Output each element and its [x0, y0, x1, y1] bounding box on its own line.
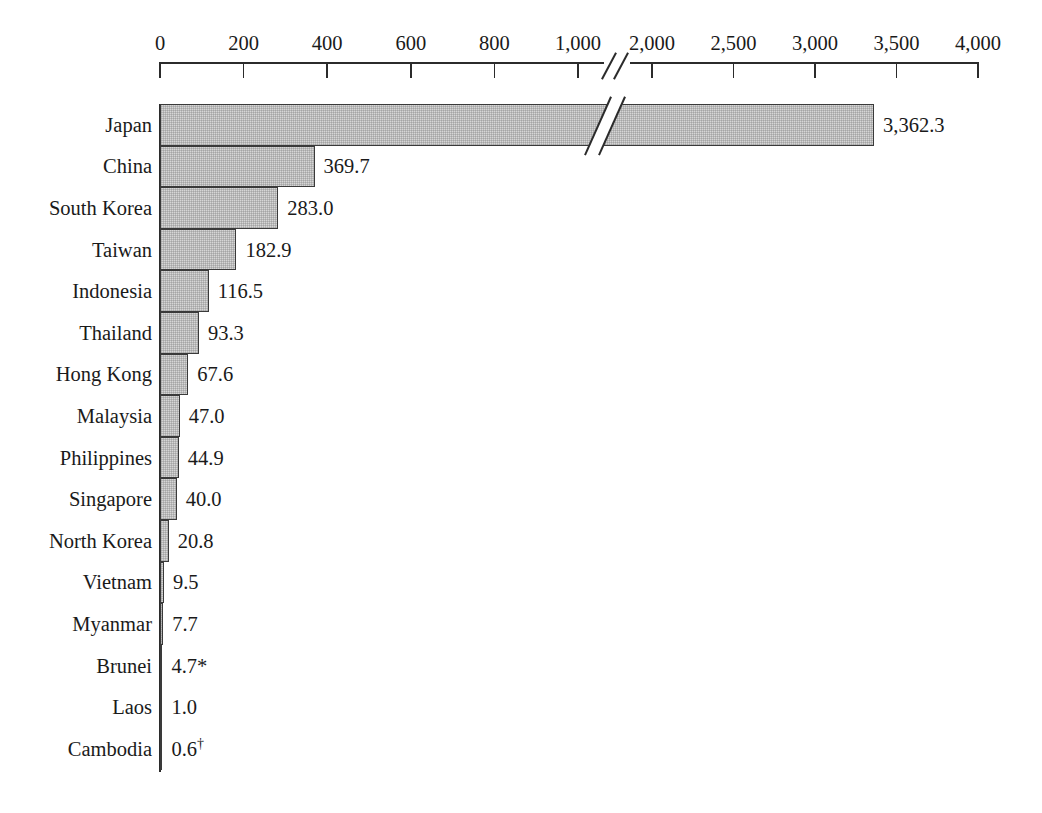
- value-label-text: 20.8: [178, 530, 214, 552]
- value-label-cambodia: 0.6†: [171, 739, 204, 760]
- value-label-japan: 3,362.3: [883, 115, 945, 136]
- bar-row: Philippines44.9: [0, 437, 1042, 479]
- value-label-china: 369.7: [324, 156, 370, 177]
- value-label-text: 47.0: [189, 405, 225, 427]
- value-label-dagger: †: [197, 736, 204, 751]
- axis-tick-label-2500: 2,500: [710, 33, 756, 54]
- value-label-text: 0.6: [171, 738, 197, 760]
- axis-tick-4000: [977, 62, 979, 78]
- category-label-china: China: [103, 156, 152, 177]
- category-label-myanmar: Myanmar: [72, 614, 152, 635]
- bar-row: Thailand93.3: [0, 312, 1042, 354]
- axis-tick-label-800: 800: [479, 33, 510, 54]
- axis-tick-0: [159, 62, 161, 78]
- axis-tick-3500: [896, 62, 898, 78]
- axis-tick-label-4000: 4,000: [955, 33, 1001, 54]
- bar-row: Singapore40.0: [0, 478, 1042, 520]
- value-label-indonesia: 116.5: [218, 281, 263, 302]
- value-label-malaysia: 47.0: [189, 406, 225, 427]
- category-label-malaysia: Malaysia: [77, 406, 152, 427]
- value-label-taiwan: 182.9: [245, 240, 291, 261]
- value-label-text: 3,362.3: [883, 114, 945, 136]
- category-label-singapore: Singapore: [69, 489, 152, 510]
- axis-tick-label-200: 200: [228, 33, 259, 54]
- value-label-text: 40.0: [186, 488, 222, 510]
- bar-vietnam: [160, 562, 164, 604]
- axis-tick-label-600: 600: [395, 33, 426, 54]
- bar-row: Laos1.0: [0, 686, 1042, 728]
- category-label-taiwan: Taiwan: [92, 240, 152, 261]
- category-label-thailand: Thailand: [79, 323, 152, 344]
- axis-tick-label-3500: 3,500: [873, 33, 919, 54]
- axis-tick-label-1000: 1,000: [555, 33, 601, 54]
- axis-tick-3000: [814, 62, 816, 78]
- category-label-brunei: Brunei: [96, 656, 152, 677]
- bar-taiwan: [160, 229, 236, 271]
- bar-china: [160, 146, 315, 188]
- category-label-vietnam: Vietnam: [83, 572, 152, 593]
- axis-break-icon: [600, 52, 634, 78]
- value-label-text: 7.7: [172, 613, 198, 635]
- axis-tick-2000: [651, 62, 653, 78]
- value-label-vietnam: 9.5: [173, 572, 199, 593]
- axis-tick-2500: [733, 62, 735, 78]
- value-label-myanmar: 7.7: [172, 614, 198, 635]
- value-label-text: 9.5: [173, 571, 199, 593]
- value-axis-line: [160, 62, 978, 64]
- axis-tick-200: [243, 62, 245, 78]
- axis-tick-label-2000: 2,000: [629, 33, 675, 54]
- bar-row: North Korea20.8: [0, 520, 1042, 562]
- value-label-singapore: 40.0: [186, 489, 222, 510]
- value-label-philippines: 44.9: [188, 448, 224, 469]
- category-label-north-korea: North Korea: [49, 531, 152, 552]
- category-label-japan: Japan: [105, 115, 152, 136]
- bar-cambodia: [160, 728, 162, 770]
- category-label-indonesia: Indonesia: [72, 281, 152, 302]
- bar-chart: 02004006008001,0002,0002,5003,0003,5004,…: [0, 0, 1042, 813]
- category-label-hong-kong: Hong Kong: [56, 364, 152, 385]
- category-label-cambodia: Cambodia: [68, 739, 152, 760]
- bar-row: Japan3,362.3: [0, 104, 1042, 146]
- axis-tick-label-3000: 3,000: [792, 33, 838, 54]
- bar-row: Myanmar7.7: [0, 603, 1042, 645]
- bar-japan: [160, 104, 874, 146]
- value-label-north-korea: 20.8: [178, 531, 214, 552]
- value-label-south-korea: 283.0: [287, 198, 333, 219]
- category-label-philippines: Philippines: [60, 448, 152, 469]
- value-label-text: 182.9: [245, 239, 291, 261]
- category-label-south-korea: South Korea: [49, 198, 152, 219]
- bar-indonesia: [160, 270, 209, 312]
- bar-south-korea: [160, 187, 278, 229]
- value-label-text: 4.7: [171, 655, 197, 677]
- value-label-text: 116.5: [218, 280, 263, 302]
- value-label-thailand: 93.3: [208, 323, 244, 344]
- bar-row: Brunei4.7*: [0, 645, 1042, 687]
- bar-philippines: [160, 437, 179, 479]
- value-label-brunei: 4.7*: [171, 656, 207, 677]
- category-label-laos: Laos: [112, 697, 152, 718]
- bar-row: Malaysia47.0: [0, 395, 1042, 437]
- bar-hong-kong: [160, 354, 188, 396]
- bar-north-korea: [160, 520, 169, 562]
- value-label-text: 44.9: [188, 447, 224, 469]
- axis-tick-label-400: 400: [312, 33, 343, 54]
- axis-tick-label-0: 0: [155, 33, 165, 54]
- value-label-laos: 1.0: [171, 697, 197, 718]
- value-label-text: 67.6: [197, 363, 233, 385]
- bar-laos: [160, 686, 162, 728]
- value-label-hong-kong: 67.6: [197, 364, 233, 385]
- value-label-text: 93.3: [208, 322, 244, 344]
- value-label-text: 283.0: [287, 197, 333, 219]
- bar-row: Hong Kong67.6: [0, 354, 1042, 396]
- value-label-text: 1.0: [171, 696, 197, 718]
- japan-bar-break-icon: [586, 96, 630, 156]
- bar-row: South Korea283.0: [0, 187, 1042, 229]
- bar-row: Taiwan182.9: [0, 229, 1042, 271]
- bar-thailand: [160, 312, 199, 354]
- axis-tick-1000: [577, 62, 579, 78]
- bar-malaysia: [160, 395, 180, 437]
- bar-row: China369.7: [0, 146, 1042, 188]
- bar-row: Indonesia116.5: [0, 270, 1042, 312]
- axis-tick-400: [326, 62, 328, 78]
- bar-row: Vietnam9.5: [0, 562, 1042, 604]
